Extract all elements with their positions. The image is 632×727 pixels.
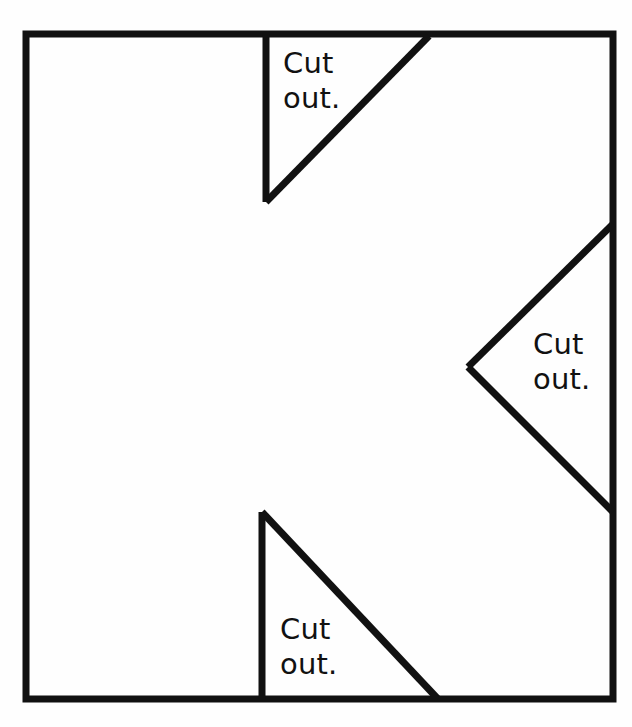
cutout-label-right-line1: Cut: [533, 327, 591, 362]
outer-square-outline: [26, 34, 613, 699]
cutout-label-bottom-line1: Cut: [280, 612, 338, 647]
cutout-label-bottom-line2: out.: [280, 647, 338, 682]
cutout-label-top: Cut out.: [283, 46, 341, 117]
cutout-label-right-line2: out.: [533, 362, 591, 397]
figure-canvas: Cut out. Cut out. Cut out.: [0, 0, 632, 727]
cutout-label-right: Cut out.: [533, 327, 591, 398]
cutout-label-top-line2: out.: [283, 81, 341, 116]
cutout-label-bottom: Cut out.: [280, 612, 338, 683]
cutout-label-top-line1: Cut: [283, 46, 341, 81]
